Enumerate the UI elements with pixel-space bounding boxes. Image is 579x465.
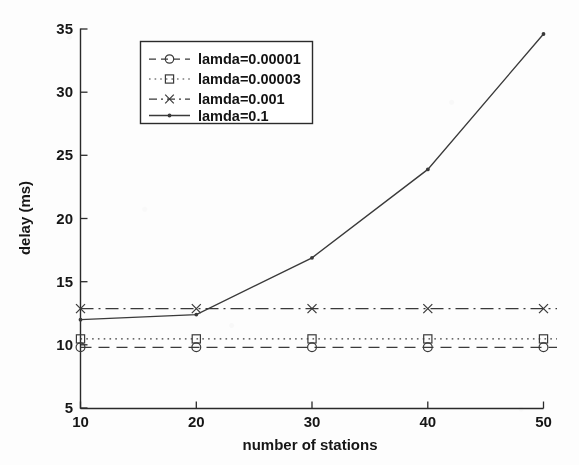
series-lamda-0-00001 (76, 343, 557, 352)
x-tick-label-20: 20 (188, 413, 205, 430)
x-tick-label-10: 10 (72, 413, 89, 430)
legend-label: lamda=0.1 (198, 108, 269, 124)
y-tick-label-10: 10 (56, 336, 73, 353)
y-tick-label-25: 25 (56, 146, 73, 163)
series-lamda-0-00003 (76, 335, 557, 343)
dot-marker-icon (168, 114, 172, 118)
data-point-marker (539, 335, 547, 343)
y-tick-label-20: 20 (56, 210, 73, 227)
x-tick-label-50: 50 (535, 413, 552, 430)
x-tick-marks (81, 402, 544, 409)
y-tick-label-30: 30 (56, 83, 73, 100)
chart-legend: lamda=0.00001 lamda=0.00003 lamda=0.001 (141, 42, 313, 124)
legend-label: lamda=0.001 (198, 91, 285, 107)
chart-figure: 35 30 25 20 15 10 5 10 20 30 40 50 numbe… (0, 0, 579, 465)
y-tick-label-35: 35 (56, 20, 73, 37)
y-tick-label-15: 15 (56, 273, 73, 290)
data-point-marker (426, 168, 430, 172)
data-point-marker (424, 335, 432, 343)
x-axis-label: number of stations (242, 436, 377, 453)
data-point-marker (194, 313, 198, 317)
x-tick-label-40: 40 (419, 413, 436, 430)
delay-vs-stations-line-chart: 35 30 25 20 15 10 5 10 20 30 40 50 numbe… (0, 0, 579, 465)
data-point-marker (79, 318, 83, 322)
series-lamda-0-001 (76, 304, 557, 313)
y-axis-label: delay (ms) (16, 181, 33, 255)
x-tick-label-30: 30 (304, 413, 321, 430)
data-point-marker (310, 256, 314, 260)
data-point-marker (192, 335, 200, 343)
data-point-marker (542, 32, 546, 36)
data-point-marker (308, 335, 316, 343)
legend-label: lamda=0.00003 (198, 71, 301, 87)
legend-label: lamda=0.00001 (198, 51, 301, 67)
